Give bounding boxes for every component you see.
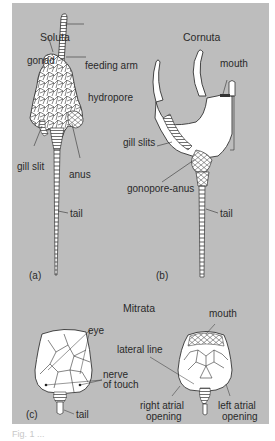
- panel-tag-a: (a): [29, 270, 41, 281]
- label-hydropore: hydropore: [88, 92, 133, 103]
- label-mouth-b: mouth: [220, 58, 248, 69]
- label-left-opening: opening: [222, 411, 258, 422]
- label-eye: eye: [88, 325, 104, 336]
- label-lateral-line: lateral line: [117, 344, 163, 355]
- cornuta-drawing: [153, 50, 235, 277]
- soluta-title: Soluta: [40, 32, 70, 43]
- label-tail-c: tail: [76, 409, 89, 420]
- mitrata-title: Mitrata: [123, 303, 155, 314]
- label-anus: anus: [69, 169, 91, 180]
- cornuta-title: Cornuta: [183, 32, 220, 43]
- label-gill-slits: gill slits: [123, 137, 155, 148]
- soluta-drawing: [30, 14, 86, 275]
- mitrata-dorsal-drawing: [35, 329, 102, 414]
- label-feeding-arm: feeding arm: [85, 60, 138, 71]
- label-tail-a: tail: [70, 208, 83, 219]
- label-right-atrial: right atrial: [140, 400, 184, 411]
- label-gill-slit: gill slit: [17, 161, 44, 172]
- label-of-touch: of touch: [103, 379, 139, 390]
- figure-caption: Fig. 1 ...: [12, 429, 45, 439]
- panel-tag-c: (c): [26, 409, 38, 420]
- label-gonad: gonad: [27, 55, 55, 66]
- label-gonopore-anus: gonopore-anus: [127, 183, 194, 194]
- panel-tag-b: (b): [156, 270, 168, 281]
- label-left-atrial: left atrial: [218, 400, 256, 411]
- label-tail-b: tail: [220, 208, 233, 219]
- label-mouth-c: mouth: [209, 308, 237, 319]
- label-right-opening: opening: [146, 411, 182, 422]
